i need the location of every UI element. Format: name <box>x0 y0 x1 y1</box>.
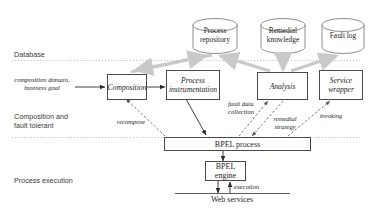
edge-label-execution: execution <box>234 183 278 191</box>
node-analysis[interactable]: Analysis <box>257 72 308 100</box>
datastore-fault-log-shape <box>322 19 364 54</box>
node-bpel-process[interactable]: BPEL process <box>164 137 311 151</box>
datastore-remedial-knowledge-shape <box>261 19 305 54</box>
edge-label-recompose: recompose <box>105 118 157 126</box>
node-bpel-engine[interactable]: BPEL engine <box>205 161 246 181</box>
node-process-instrumentation[interactable]: Process instrumentation <box>166 70 220 100</box>
node-composition[interactable]: Composition <box>107 74 147 100</box>
layer-label-process-execution: Process execution <box>14 176 73 185</box>
diagram-canvas: Database Composition and fault tolerant … <box>0 0 371 212</box>
edge-label-fault-data-collection: fault data collection <box>228 100 272 115</box>
gray-edge-analysis-to-faultlog <box>291 56 336 71</box>
edge-instrumentation-to-bpel-process <box>186 99 206 135</box>
datastore-process-repository-shape <box>193 19 237 54</box>
edge-label-remedial-strategy: remedial strategy <box>264 115 306 130</box>
gray-edge-analysis-to-repository <box>221 56 270 71</box>
gray-edge-repository-to-composition <box>136 55 212 70</box>
layer-label-database: Database <box>14 50 45 59</box>
layer-label-composition-fault-tolerant: Composition and fault tolerant <box>14 112 68 130</box>
edge-label-input-goal: composition domain, business goal <box>8 76 76 91</box>
node-service-wrapper[interactable]: Service wrapper <box>319 70 363 100</box>
edge-label-invoking: invoking <box>311 112 351 120</box>
label-web-services: Web services <box>182 195 282 204</box>
